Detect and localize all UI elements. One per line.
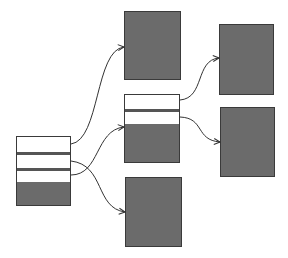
edge-root-to-middle-record (71, 127, 124, 175)
diagram-canvas (0, 0, 288, 258)
edge-middle-to-right-top-block (180, 58, 219, 100)
edge-middle-to-right-bottom-block (180, 117, 220, 142)
edge-root-to-bottom-block (71, 161, 125, 212)
edges-layer (0, 0, 288, 258)
